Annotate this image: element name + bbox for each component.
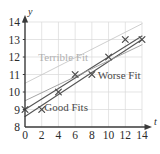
x-tick-label: 2 bbox=[39, 129, 45, 141]
x-tick-label: 8 bbox=[89, 129, 95, 141]
scatter-plot-with-fit-lines: 02468101214 891011121314 yt Terrible Fit… bbox=[0, 0, 160, 154]
x-tick-label: 0 bbox=[22, 129, 28, 141]
y-tick-label: 9 bbox=[14, 104, 20, 116]
annotation-label: Worse Fit bbox=[98, 69, 141, 81]
x-tick-label: 4 bbox=[56, 129, 62, 141]
annotation-label: Good Fits bbox=[44, 101, 88, 113]
chart-figure: 02468101214 891011121314 yt Terrible Fit… bbox=[0, 0, 160, 154]
y-tick-label: 8 bbox=[14, 121, 20, 133]
x-tick-label: 10 bbox=[103, 129, 115, 141]
x-tick-label: 6 bbox=[72, 129, 78, 141]
y-tick-label: 12 bbox=[9, 51, 21, 63]
y-axis-name: y bbox=[27, 6, 33, 17]
y-tick-label: 11 bbox=[9, 69, 20, 81]
annotation-label: Terrible Fit bbox=[38, 51, 88, 63]
x-tick-label: 12 bbox=[120, 129, 132, 141]
x-axis-name: t bbox=[154, 116, 157, 127]
y-tick-label: 13 bbox=[9, 34, 21, 46]
y-tick-label: 10 bbox=[9, 86, 21, 98]
y-tick-label: 14 bbox=[9, 16, 21, 28]
x-tick-label: 14 bbox=[136, 129, 148, 141]
